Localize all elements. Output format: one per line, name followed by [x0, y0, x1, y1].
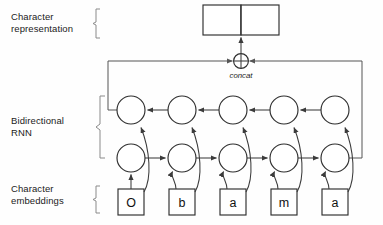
- embedding-char-3: m: [279, 196, 289, 210]
- bracket-bidirectional-rnn: [96, 96, 105, 158]
- embedding-char-1: b: [179, 196, 186, 210]
- rnn-forward-cell-4: [321, 144, 349, 172]
- bracket-character-representation: [93, 9, 100, 38]
- rnn-forward-cell-2: [219, 144, 247, 172]
- embedding-char-0: O: [126, 196, 136, 210]
- rnn-backward-row: [117, 96, 349, 124]
- rnn-backward-cell-1: [168, 96, 196, 124]
- label-character-embeddings: Character embeddings: [11, 183, 87, 207]
- label-bidirectional-rnn: Bidirectional RNN: [11, 115, 87, 139]
- bracket-character-embeddings: [93, 186, 100, 213]
- concat-label: concat: [230, 71, 254, 80]
- rnn-backward-cell-0: [117, 96, 145, 124]
- embedding-char-4: a: [332, 196, 339, 210]
- rnn-backward-cell-2: [219, 96, 247, 124]
- rnn-backward-cell-4: [321, 96, 349, 124]
- character-embedding-boxes: O b a m a: [118, 189, 348, 215]
- label-character-representation: Character representation: [11, 11, 87, 35]
- concat-node: [234, 54, 249, 69]
- rnn-forward-row: [117, 144, 349, 172]
- embedding-char-2: a: [230, 196, 237, 210]
- rnn-forward-cell-1: [168, 144, 196, 172]
- rnn-forward-cell-0: [117, 144, 145, 172]
- diagram-canvas: concat: [0, 0, 383, 225]
- rnn-forward-cell-3: [270, 144, 298, 172]
- character-representation-box: [203, 5, 279, 35]
- rnn-backward-cell-3: [270, 96, 298, 124]
